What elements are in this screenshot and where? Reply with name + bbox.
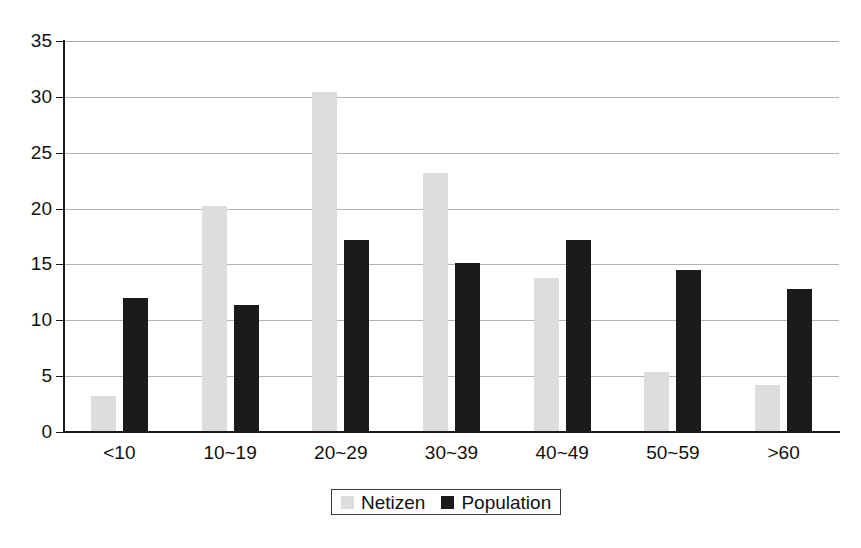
y-axis-tick-label-text: 15	[6, 254, 52, 273]
y-axis-tick-label: 20	[0, 199, 52, 218]
legend-swatch-icon	[341, 496, 354, 509]
bar-population-3	[455, 263, 480, 432]
gridline	[64, 376, 839, 377]
gridline	[64, 264, 839, 265]
legend-entry-population[interactable]: Population	[441, 493, 551, 512]
y-axis-tick	[56, 376, 63, 377]
legend-swatch-icon	[441, 496, 454, 509]
x-axis-category-label: 50~59	[613, 442, 733, 464]
bar-chart: 05101520253035 <1010~1920~2930~3940~4950…	[0, 0, 861, 548]
y-axis-tick-label: 30	[0, 87, 52, 106]
bar-population-0	[123, 298, 148, 432]
x-axis-category-label: >60	[724, 442, 844, 464]
gridline	[64, 209, 839, 210]
bar-population-4	[566, 240, 591, 432]
y-axis-tick-label-text: 20	[6, 199, 52, 218]
y-axis-tick-label-text: 0	[6, 422, 52, 441]
y-axis-tick-label: 10	[0, 310, 52, 329]
bar-netizen-2	[312, 92, 337, 432]
y-axis-tick	[56, 97, 63, 98]
legend-label: Netizen	[361, 493, 425, 512]
y-axis-tick	[56, 432, 63, 433]
y-axis-tick-label-text: 10	[6, 310, 52, 329]
legend-label: Population	[461, 493, 551, 512]
chart-legend: NetizenPopulation	[331, 489, 561, 515]
bar-netizen-0	[91, 396, 116, 432]
y-axis-tick-label-text: 5	[6, 366, 52, 385]
y-axis-tick-label-text: 25	[6, 143, 52, 162]
plot-area	[64, 41, 839, 432]
x-axis-category-label: 30~39	[392, 442, 512, 464]
y-axis-tick-label: 35	[0, 31, 52, 50]
y-axis-tick	[56, 41, 63, 42]
bar-netizen-3	[423, 173, 448, 432]
gridline	[64, 97, 839, 98]
y-axis-tick-label: 0	[0, 422, 52, 441]
gridline	[64, 153, 839, 154]
bar-population-1	[234, 305, 259, 432]
bar-population-2	[344, 240, 369, 432]
bar-population-5	[676, 270, 701, 432]
x-axis-category-label: 10~19	[170, 442, 290, 464]
y-axis-tick-label: 5	[0, 366, 52, 385]
y-axis-tick-label: 25	[0, 143, 52, 162]
bar-netizen-6	[755, 385, 780, 432]
bar-population-6	[787, 289, 812, 432]
gridline	[64, 320, 839, 321]
y-axis-line	[63, 40, 65, 433]
gridline	[64, 41, 839, 42]
y-axis-tick-label-text: 35	[6, 31, 52, 50]
y-axis-tick-label-text: 30	[6, 87, 52, 106]
y-axis-tick-label: 15	[0, 254, 52, 273]
bar-netizen-4	[534, 278, 559, 432]
y-axis-tick	[56, 320, 63, 321]
x-axis-category-label: 20~29	[281, 442, 401, 464]
bar-netizen-5	[644, 372, 669, 432]
y-axis-tick	[56, 209, 63, 210]
y-axis-tick	[56, 153, 63, 154]
x-axis-category-label: 40~49	[502, 442, 622, 464]
bar-netizen-1	[202, 206, 227, 432]
y-axis-tick	[56, 264, 63, 265]
x-axis-line	[63, 431, 840, 433]
legend-entry-netizen[interactable]: Netizen	[341, 493, 425, 512]
x-axis-category-label: <10	[59, 442, 179, 464]
